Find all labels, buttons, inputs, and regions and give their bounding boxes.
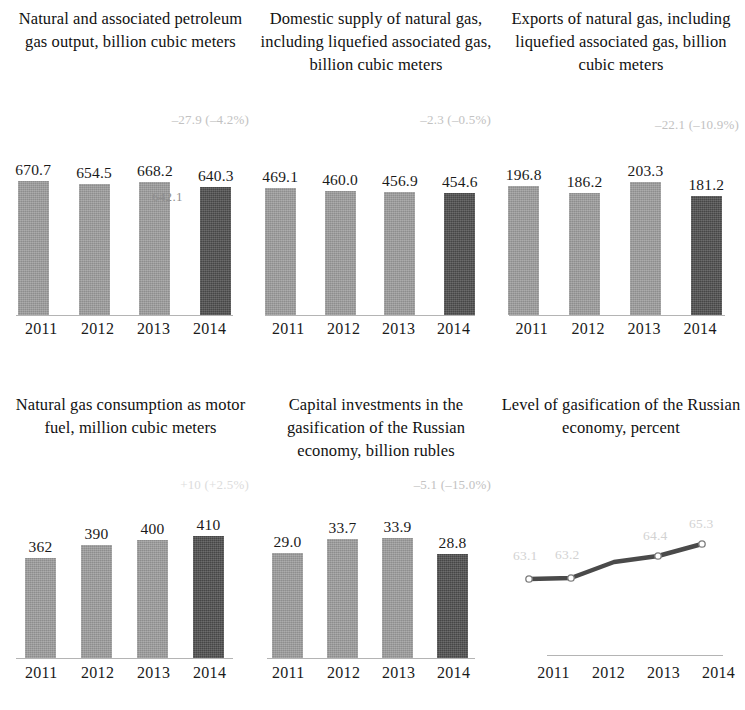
bar-group: 410 <box>193 513 224 658</box>
line-point-label: 64.4 <box>643 528 667 544</box>
bar-group: 33.7 <box>327 517 358 658</box>
bar <box>508 186 539 315</box>
bar-group: 33.9 <box>382 517 413 658</box>
x-tick-label: 2011 <box>516 320 547 338</box>
bar-group: 456.9 <box>382 161 418 315</box>
chart-panel-exports: Exports of natural gas, including liquef… <box>491 0 739 372</box>
chart-title: Exports of natural gas, including liquef… <box>491 8 745 76</box>
x-tick-label: 2014 <box>193 664 224 682</box>
bar <box>18 181 49 315</box>
bar <box>79 184 110 315</box>
bar-value-label: 456.9 <box>382 172 418 190</box>
bar-value-label: 186.2 <box>567 173 603 191</box>
x-axis-line <box>267 658 475 659</box>
bar <box>25 558 56 658</box>
x-tick-label: 2014 <box>437 320 468 338</box>
x-tick-label: 2013 <box>137 664 168 682</box>
chart-delta-annotation: –2.3 (–0.5%) <box>249 112 507 128</box>
chart-panel-gas-output: Natural and associated petroleum gas out… <box>0 0 249 372</box>
line-plot-area: 63.1 63.2 64.4 65.3 <box>491 482 739 612</box>
bar <box>630 182 661 315</box>
x-tick-label: 2013 <box>382 320 413 338</box>
bar-group: 28.8 <box>437 517 468 658</box>
chart-delta-annotation: –22.1 (–10.9%) <box>491 117 745 133</box>
bar-highlight <box>200 187 231 315</box>
chart-panel-capital-investments: Capital investments in the gasification … <box>249 372 491 710</box>
bar-value-label: 460.0 <box>322 171 358 189</box>
bar-value-label: 196.8 <box>506 166 542 184</box>
bar-group: 668.2 <box>137 155 173 315</box>
bar-value-label: 28.8 <box>439 534 467 552</box>
line-marker <box>568 575 574 581</box>
chart-title: Natural and associated petroleum gas out… <box>0 8 261 54</box>
x-axis-line <box>16 658 233 659</box>
chart-delta-annotation: –27.9 (–4.2%) <box>0 112 265 128</box>
bar <box>325 191 356 315</box>
x-tick-label: 2012 <box>327 664 358 682</box>
bar-group: 362 <box>25 513 56 658</box>
bar-value-label: 654.5 <box>76 164 112 182</box>
bar-group: 186.2 <box>567 158 603 315</box>
x-tick-label: 2011 <box>537 664 571 682</box>
bar-group: 203.3 <box>628 158 664 315</box>
bar <box>327 539 358 658</box>
chart-delta-annotation: +10 (+2.5%) <box>0 477 265 493</box>
bar-group: 654.5 <box>76 155 112 315</box>
bar-group: 640.3 <box>198 155 234 315</box>
bar-value-label: 410 <box>197 516 221 534</box>
bar <box>139 182 170 315</box>
bar-value-label: 469.1 <box>262 168 298 186</box>
bar-group: 670.7 <box>15 155 51 315</box>
bar-highlight <box>444 193 475 315</box>
line-marker <box>526 576 532 582</box>
bar-group: 181.2 <box>688 158 724 315</box>
line-marker <box>699 541 705 547</box>
bar-value-label: 29.0 <box>274 533 302 551</box>
bar <box>265 188 296 315</box>
bar-value-label: 668.2 <box>137 162 173 180</box>
bar <box>384 192 415 315</box>
bar-highlight <box>437 554 468 658</box>
x-axis-line <box>509 315 725 316</box>
bar-value-label: 362 <box>29 538 53 556</box>
bar-value-label: 400 <box>141 520 165 538</box>
chart-title: Capital investments in the gasification … <box>249 394 503 462</box>
line-point-label: 63.2 <box>555 547 579 563</box>
bar-group: 390 <box>81 513 112 658</box>
x-tick-label: 2014 <box>193 320 224 338</box>
line-point-label: 63.1 <box>513 548 537 564</box>
bar-value-label: 33.7 <box>329 519 357 537</box>
x-tick-label: 2011 <box>272 664 303 682</box>
x-tick-label: 2012 <box>81 664 112 682</box>
x-axis-line <box>547 655 723 656</box>
bar-value-label: 203.3 <box>628 162 664 180</box>
bar <box>382 538 413 658</box>
x-tick-label: 2012 <box>592 664 626 682</box>
x-tick-label: 2011 <box>25 664 56 682</box>
bar-group: 400 <box>137 513 168 658</box>
x-tick-label: 2013 <box>647 664 681 682</box>
x-tick-label: 2011 <box>25 320 56 338</box>
bar <box>81 545 112 658</box>
x-axis-line <box>265 315 475 316</box>
bar-group: 454.6 <box>442 161 478 315</box>
bar-value-label: 181.2 <box>688 176 724 194</box>
bar-highlight <box>193 536 224 658</box>
bar <box>272 553 303 658</box>
bar <box>569 193 600 315</box>
x-tick-label: 2012 <box>572 320 603 338</box>
x-tick-label: 2012 <box>81 320 112 338</box>
chart-panel-motor-fuel: Natural gas consumption as motor fuel, m… <box>0 372 249 710</box>
x-tick-label: 2014 <box>437 664 468 682</box>
x-tick-label: 2012 <box>327 320 358 338</box>
x-tick-label: 2013 <box>137 320 168 338</box>
bar-highlight <box>691 196 722 315</box>
chart-title: Level of gasification of the Russian eco… <box>491 394 745 440</box>
bar-value-label: 454.6 <box>442 173 478 191</box>
chart-delta-annotation: –5.1 (–15.0%) <box>249 477 507 493</box>
bar-value-label: 670.7 <box>15 161 51 179</box>
line-point-label: 65.3 <box>689 516 713 532</box>
x-axis-line <box>16 315 233 316</box>
chart-title: Domestic supply of natural gas, includin… <box>249 8 503 76</box>
chart-title: Natural gas consumption as motor fuel, m… <box>0 394 261 440</box>
